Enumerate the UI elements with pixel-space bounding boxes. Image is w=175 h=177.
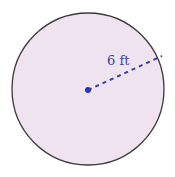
radius-label: 6 ft (107, 53, 130, 68)
center-point (85, 87, 91, 93)
circle-diagram: 6 ft (0, 0, 175, 177)
